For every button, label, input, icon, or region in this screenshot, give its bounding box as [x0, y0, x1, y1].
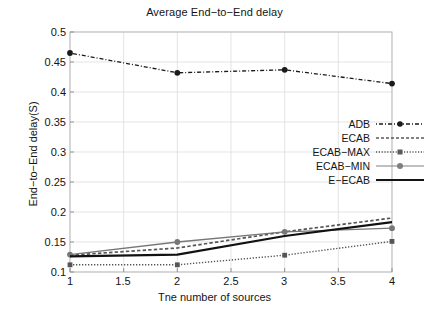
series-marker: [68, 262, 73, 267]
series-marker: [67, 50, 73, 56]
legend-item-ecab-max: ECAB−MAX: [279, 145, 425, 159]
legend-item-ecab-min: ECAB−MIN: [279, 159, 425, 173]
legend-label: ECAB: [341, 132, 375, 144]
series-marker: [174, 70, 180, 76]
legend-line-ecab: [375, 132, 425, 144]
chart-legend: ADB ECAB ECAB−MAX: [279, 117, 425, 187]
legend-item-ecab: ECAB: [279, 131, 425, 145]
series-marker: [389, 225, 395, 231]
series-marker: [282, 253, 287, 258]
series-marker: [282, 229, 288, 235]
legend-swatch-ecab-max: [375, 146, 425, 158]
series-marker: [282, 67, 288, 73]
legend-swatch-ecab: [375, 132, 425, 144]
legend-label: E−ECAB: [328, 174, 375, 186]
series-marker: [175, 262, 180, 267]
series-marker: [390, 239, 395, 244]
legend-line-e-ecab: [375, 174, 425, 186]
legend-line-ecab-min: [375, 160, 425, 172]
legend-label: ECAB−MAX: [313, 146, 375, 158]
chart-figure: Average End−to−End delay End−to−End dela…: [0, 0, 429, 311]
legend-label: ADB: [348, 118, 375, 130]
legend-line-ecab-max: [375, 146, 425, 158]
legend-swatch-ecab-min: [375, 160, 425, 172]
series-marker: [174, 239, 180, 245]
legend-line-adb: [375, 118, 425, 130]
series-marker: [389, 81, 395, 87]
legend-swatch-adb: [375, 118, 425, 130]
legend-label: ECAB−MIN: [316, 160, 375, 172]
legend-item-e-ecab: E−ECAB: [279, 173, 425, 187]
legend-swatch-e-ecab: [375, 174, 425, 186]
legend-item-adb: ADB: [279, 117, 425, 131]
